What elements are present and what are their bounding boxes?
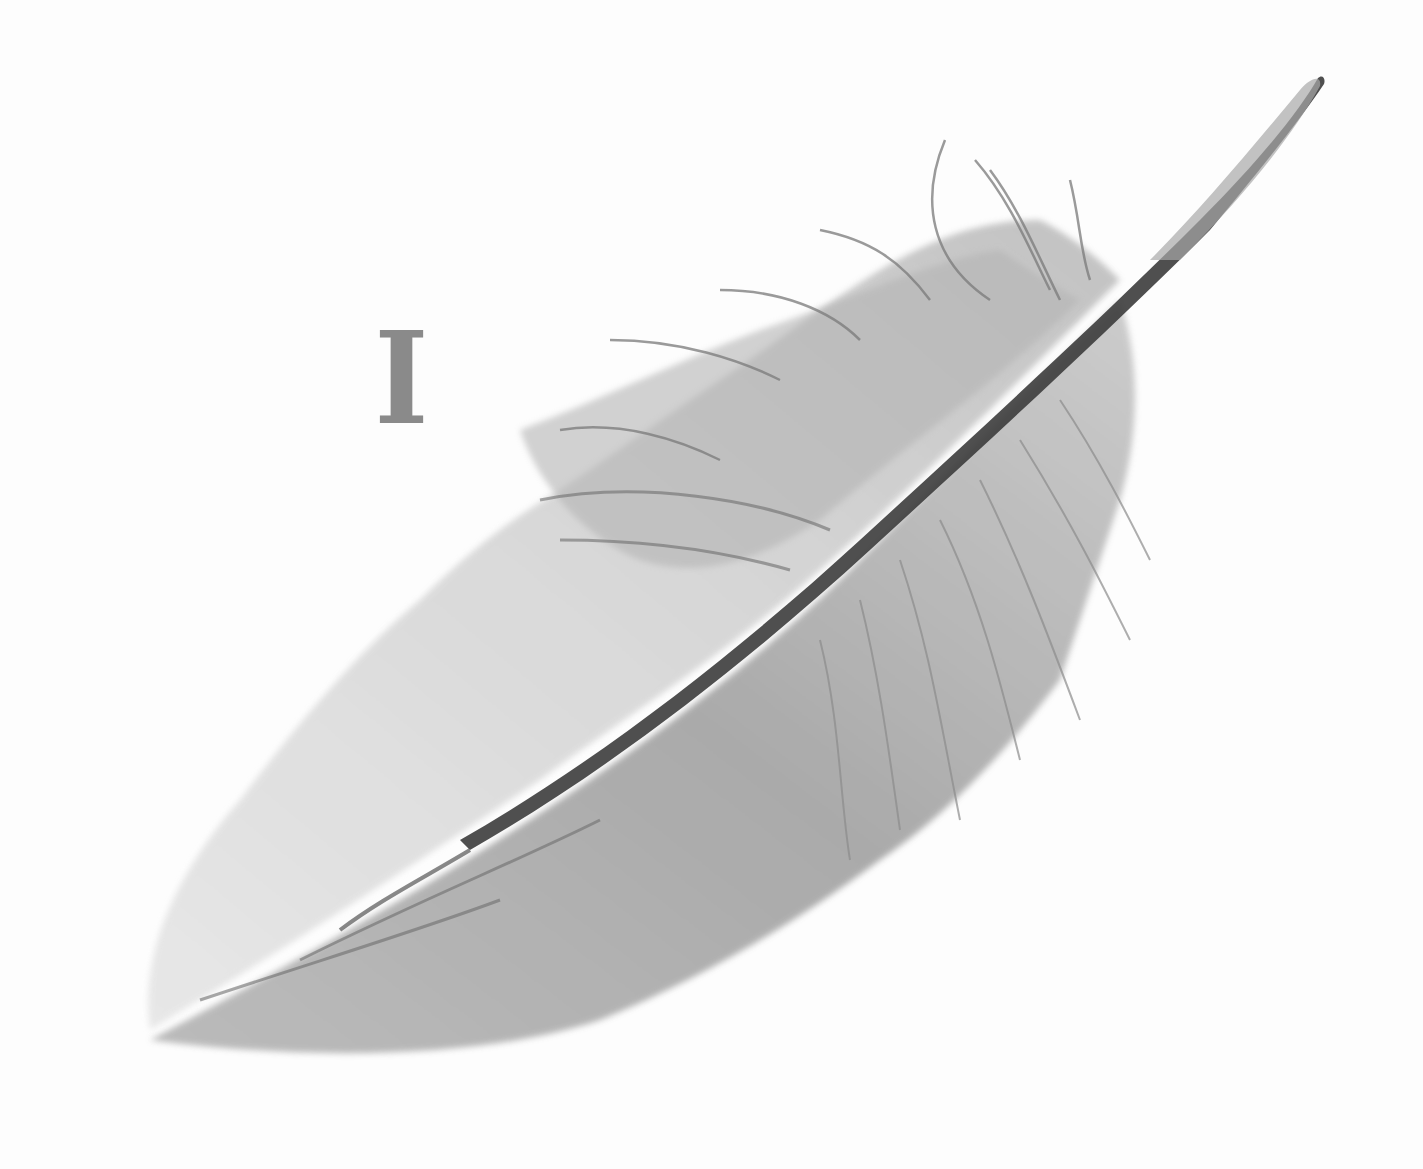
- feather-illustration: [0, 0, 1423, 1169]
- illustration-canvas: I: [0, 0, 1423, 1169]
- quill-tip: [1150, 79, 1320, 260]
